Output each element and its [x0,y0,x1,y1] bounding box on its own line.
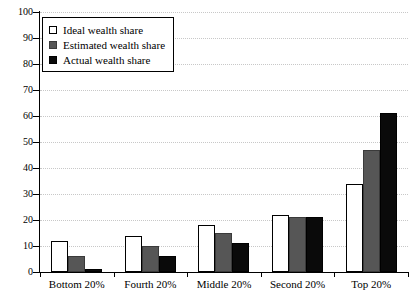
bar [142,246,159,272]
y-axis-tick [33,38,39,39]
x-axis-tick [408,272,409,277]
y-axis-tick-label: 60 [5,111,33,121]
y-axis-tick [33,194,39,195]
y-axis-tick [33,168,39,169]
y-axis-labels: 0102030405060708090100 [0,0,33,306]
y-axis-tick-label: 40 [5,163,33,173]
bar [159,256,176,272]
bar [306,217,323,272]
y-axis-tick-label: 30 [5,189,33,199]
bar [68,256,85,272]
y-axis-tick-label: 70 [5,85,33,95]
gray-square-icon [49,41,57,49]
y-axis-tick-label: 10 [5,241,33,251]
wealth-share-bar-chart: 0102030405060708090100 Bottom 20%Fourth … [0,0,416,306]
y-axis-tick [33,12,39,13]
y-axis-tick [33,220,39,221]
bar [363,150,380,272]
x-axis-labels: Bottom 20%Fourth 20%Middle 20%Second 20%… [40,277,408,297]
x-axis-category-label: Middle 20% [187,277,261,291]
bar-group [334,12,408,272]
y-axis-tick [33,142,39,143]
y-axis-tick [33,64,39,65]
x-axis-category-label: Top 20% [334,277,408,291]
bar [125,236,142,272]
bar [215,233,232,272]
legend-item: Ideal wealth share [49,22,165,37]
bar-group [187,12,261,272]
y-axis-tick [33,90,39,91]
legend-item: Actual wealth share [49,52,165,67]
bar [198,225,215,272]
bar [51,241,68,272]
white-square-icon [49,26,57,34]
y-axis-tick-label: 0 [5,267,33,277]
chart-legend: Ideal wealth share Estimated wealth shar… [42,17,174,72]
x-axis-line [39,272,408,273]
y-axis-tick-label: 20 [5,215,33,225]
y-axis-tick [33,272,39,273]
y-axis-tick [33,116,39,117]
bar-group [261,12,335,272]
y-axis-tick-label: 50 [5,137,33,147]
bar [232,243,249,272]
x-axis-category-label: Bottom 20% [40,277,114,291]
bar [85,269,102,272]
bar [380,113,397,272]
y-axis-tick [33,246,39,247]
legend-label: Ideal wealth share [63,24,143,36]
y-axis-tick-label: 90 [5,33,33,43]
y-axis-tick-label: 80 [5,59,33,69]
y-axis-tick-label: 100 [5,7,33,17]
bar [346,184,363,272]
x-axis-category-label: Second 20% [261,277,335,291]
black-square-icon [49,56,57,64]
legend-label: Estimated wealth share [63,39,165,51]
legend-label: Actual wealth share [63,54,150,66]
x-axis-category-label: Fourth 20% [114,277,188,291]
bar [289,217,306,272]
legend-item: Estimated wealth share [49,37,165,52]
bar [272,215,289,272]
